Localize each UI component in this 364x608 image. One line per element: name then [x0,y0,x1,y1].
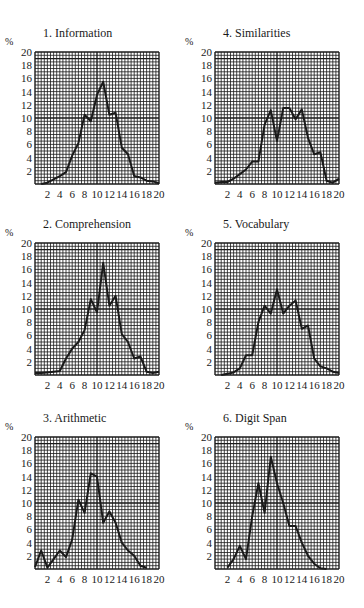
x-tick-label: 18 [321,573,333,585]
chart-title-information: 1. Information [43,26,112,41]
x-tick-label: 16 [309,188,321,200]
x-tick-label: 8 [262,188,268,200]
x-tick-label: 16 [129,379,141,391]
x-tick-label: 6 [69,379,75,391]
y-tick-label: 4 [27,343,33,355]
x-tick-label: 12 [104,573,115,585]
grid [215,437,339,569]
y-axis-unit-label: % [5,227,13,238]
y-tick-label: 4 [207,537,213,549]
y-tick-label: 18 [201,250,213,262]
x-tick-label: 6 [249,573,255,585]
x-tick-label: 12 [284,573,295,585]
y-tick-label: 6 [207,138,213,150]
x-tick-label: 12 [104,188,115,200]
x-tick-label: 4 [57,573,63,585]
x-tick-label: 20 [154,379,166,391]
y-tick-label: 14 [201,86,213,98]
x-tick-label: 14 [296,188,308,200]
x-tick-label: 18 [321,188,333,200]
y-tick-label: 8 [27,125,33,137]
x-tick-label: 20 [154,573,166,585]
y-tick-label: 12 [21,290,32,302]
y-tick-label: 6 [207,329,213,341]
x-tick-label: 20 [334,188,346,200]
y-tick-label: 12 [201,484,212,496]
chart-title-comprehension: 2. Comprehension [43,217,131,232]
y-tick-label: 14 [21,86,33,98]
y-tick-label: 16 [21,457,33,469]
x-tick-label: 10 [92,573,104,585]
y-tick-label: 8 [27,316,33,328]
x-tick-label: 6 [69,188,75,200]
y-tick-label: 18 [201,59,213,71]
y-tick-label: 14 [21,471,33,483]
x-tick-label: 8 [82,379,88,391]
y-tick-label: 10 [21,303,33,315]
grid [215,52,339,184]
chart-similarities: 24681012141618202468101214161820 [185,52,349,204]
x-tick-label: 2 [225,188,231,200]
x-tick-label: 8 [82,573,88,585]
y-tick-label: 12 [201,99,212,111]
y-tick-label: 2 [27,550,33,562]
y-tick-label: 4 [207,152,213,164]
x-tick-label: 16 [129,188,141,200]
x-tick-label: 14 [296,573,308,585]
y-tick-label: 2 [207,356,213,368]
x-tick-label: 6 [249,188,255,200]
y-tick-label: 6 [207,523,213,535]
y-axis-unit-label: % [185,227,193,238]
y-tick-label: 20 [201,237,213,249]
x-tick-label: 20 [334,573,346,585]
y-axis-unit-label: % [185,36,193,47]
y-tick-label: 6 [27,523,33,535]
y-tick-label: 4 [207,343,213,355]
y-tick-label: 14 [201,471,213,483]
grid [35,52,159,184]
chart-digit-span: 24681012141618202468101214161820 [185,437,349,589]
x-tick-label: 8 [262,379,268,391]
chart-vocabulary: 24681012141618202468101214161820 [185,243,349,395]
y-tick-label: 20 [21,237,33,249]
y-tick-label: 10 [201,497,213,509]
y-tick-label: 2 [207,550,213,562]
y-tick-label: 20 [201,431,213,443]
y-tick-label: 10 [21,112,33,124]
y-tick-label: 8 [207,316,213,328]
y-tick-label: 4 [27,152,33,164]
x-tick-label: 4 [237,573,243,585]
y-tick-label: 2 [207,165,213,177]
x-tick-label: 10 [272,379,284,391]
y-tick-label: 10 [201,112,213,124]
x-tick-label: 20 [154,188,166,200]
y-tick-label: 16 [21,72,33,84]
x-tick-label: 10 [272,188,284,200]
y-tick-label: 12 [201,290,212,302]
y-tick-label: 18 [21,250,33,262]
y-tick-label: 18 [21,444,33,456]
chart-title-digit-span: 6. Digit Span [223,411,287,426]
y-axis-unit-label: % [5,421,13,432]
y-tick-label: 14 [21,277,33,289]
x-tick-label: 2 [45,379,51,391]
x-tick-label: 4 [237,379,243,391]
x-tick-label: 10 [92,188,104,200]
x-tick-label: 18 [141,188,153,200]
x-tick-label: 2 [45,188,51,200]
chart-arithmetic: 24681012141618202468101214161820 [5,437,169,589]
grid [35,437,159,569]
y-tick-label: 16 [201,457,213,469]
y-tick-label: 2 [27,356,33,368]
y-tick-label: 8 [207,125,213,137]
chart-information: 24681012141618202468101214161820 [5,52,169,204]
x-tick-label: 20 [334,379,346,391]
x-tick-label: 2 [225,379,231,391]
y-tick-label: 20 [21,431,33,443]
y-tick-label: 10 [201,303,213,315]
y-tick-label: 20 [21,46,33,58]
y-tick-label: 16 [21,263,33,275]
x-tick-label: 10 [272,573,284,585]
x-tick-label: 4 [237,188,243,200]
x-tick-label: 16 [309,379,321,391]
